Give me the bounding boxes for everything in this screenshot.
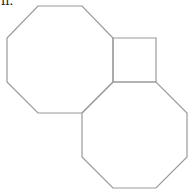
square [113, 38, 156, 82]
right-octagon [82, 82, 187, 188]
tessellation-diagram [0, 0, 189, 191]
left-octagon [7, 6, 113, 113]
